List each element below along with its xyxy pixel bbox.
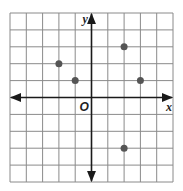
coordinate-plane: x y O [0, 0, 183, 191]
origin-label: O [80, 100, 90, 114]
data-point [55, 60, 62, 67]
data-point [121, 145, 128, 152]
y-axis-label: y [81, 12, 89, 26]
x-axis-label: x [165, 100, 172, 114]
data-point [72, 77, 79, 84]
axes [11, 14, 172, 181]
data-point [137, 77, 144, 84]
data-point [121, 43, 128, 50]
